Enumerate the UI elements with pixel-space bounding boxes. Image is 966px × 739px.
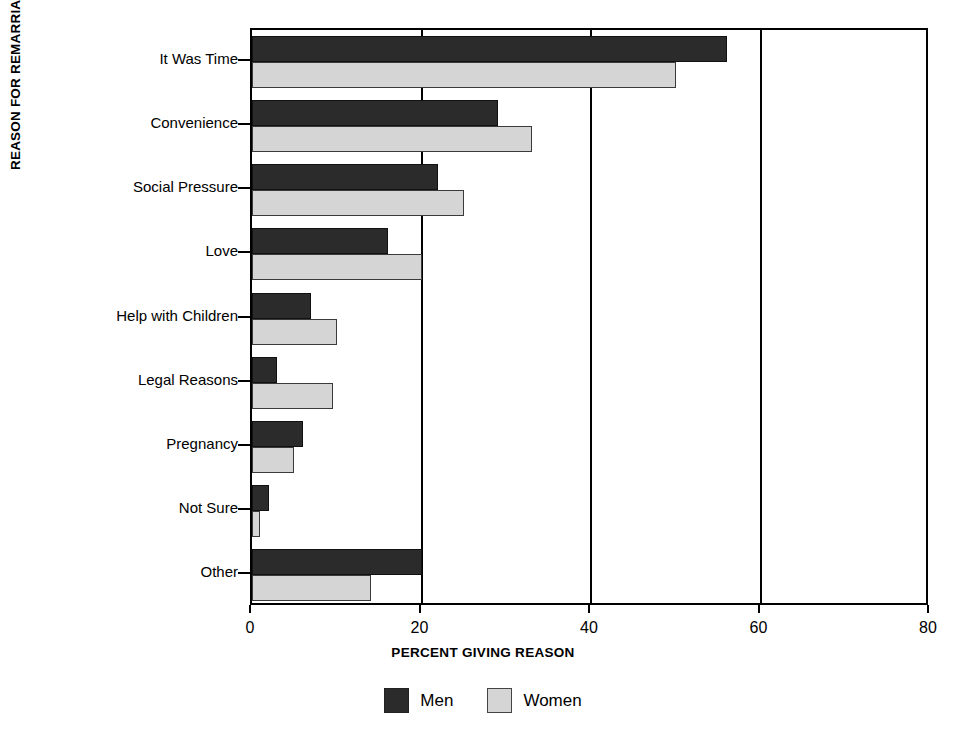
y-axis-label-3: Love	[205, 243, 238, 258]
y-axis-label-5: Legal Reasons	[138, 372, 238, 387]
legend-label-men: Men	[420, 691, 453, 711]
bar-men-2	[252, 164, 438, 190]
chart-figure: REASON FOR REMARRIAGE It Was TimeConveni…	[0, 0, 966, 739]
y-axis-label-7: Not Sure	[179, 500, 238, 515]
y-tick-0	[238, 59, 250, 61]
x-tick-0	[249, 605, 251, 613]
y-axis-label-0: It Was Time	[159, 51, 238, 66]
x-tick-label-0: 0	[220, 619, 280, 637]
bars-layer	[252, 30, 926, 603]
bar-women-3	[252, 254, 422, 280]
x-tick-40	[588, 605, 590, 613]
x-axis-title: PERCENT GIVING REASON	[0, 645, 966, 660]
legend-swatch-men	[384, 688, 409, 713]
y-axis-label-8: Other	[200, 564, 238, 579]
bar-men-4	[252, 293, 311, 319]
bar-men-0	[252, 36, 727, 62]
x-tick-label-80: 80	[898, 619, 958, 637]
bar-men-5	[252, 357, 277, 383]
y-axis-label-6: Pregnancy	[166, 436, 238, 451]
y-tick-3	[238, 251, 250, 253]
y-tick-2	[238, 187, 250, 189]
y-axis-label-2: Social Pressure	[133, 179, 238, 194]
bar-women-1	[252, 126, 532, 152]
x-tick-20	[419, 605, 421, 613]
y-tick-8	[238, 572, 250, 574]
legend-label-women: Women	[523, 691, 581, 711]
y-axis-title: REASON FOR REMARRIAGE	[8, 0, 23, 170]
bar-women-4	[252, 319, 337, 345]
bar-women-8	[252, 575, 371, 601]
y-axis-label-4: Help with Children	[116, 308, 238, 323]
y-tick-5	[238, 380, 250, 382]
bar-women-5	[252, 383, 333, 409]
bar-men-6	[252, 421, 303, 447]
bar-men-1	[252, 100, 498, 126]
chart-legend: MenWomen	[0, 688, 966, 713]
x-tick-label-40: 40	[559, 619, 619, 637]
x-tick-label-60: 60	[729, 619, 789, 637]
y-axis-label-1: Convenience	[150, 115, 238, 130]
legend-swatch-women	[487, 688, 512, 713]
y-tick-4	[238, 316, 250, 318]
x-tick-label-20: 20	[390, 619, 450, 637]
bar-men-3	[252, 228, 388, 254]
legend-item-women: Women	[487, 688, 581, 713]
bar-women-6	[252, 447, 294, 473]
bar-women-0	[252, 62, 676, 88]
y-tick-1	[238, 123, 250, 125]
bar-men-7	[252, 485, 269, 511]
legend-item-men: Men	[384, 688, 453, 713]
x-tick-80	[927, 605, 929, 613]
y-tick-7	[238, 508, 250, 510]
bar-women-2	[252, 190, 464, 216]
plot-area	[250, 28, 928, 605]
bar-women-7	[252, 511, 260, 537]
x-tick-60	[758, 605, 760, 613]
bar-men-8	[252, 549, 422, 575]
y-tick-6	[238, 444, 250, 446]
